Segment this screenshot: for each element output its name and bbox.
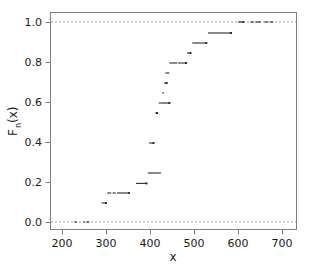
y-axis-ticks (46, 23, 51, 223)
step-endpoint-marker (185, 62, 187, 64)
step-endpoint-marker (230, 32, 232, 34)
step-endpoint-marker (205, 42, 207, 44)
y-axis-tick-labels: 0.0 0.2 0.4 0.6 0.8 1.0 (25, 16, 43, 229)
y-tick-label-0.8: 0.8 (25, 56, 43, 69)
x-tick-label-200: 200 (52, 237, 73, 250)
x-tick-label-300: 300 (96, 237, 117, 250)
x-axis-title: x (169, 250, 176, 264)
y-axis-title-tail: (x) (6, 107, 20, 123)
y-axis-title-base: F (6, 129, 20, 136)
x-axis-tick-labels: 200 300 400 500 600 700 (52, 237, 293, 250)
y-tick-label-1.0: 1.0 (25, 16, 43, 29)
step-endpoint-marker (153, 142, 155, 144)
x-tick-label-600: 600 (228, 237, 249, 250)
step-endpoint-marker (128, 192, 130, 194)
step-endpoint-marker (166, 82, 168, 84)
ecdf-data-layer (74, 21, 273, 222)
x-tick-label-400: 400 (140, 237, 161, 250)
ecdf-figure: 200 300 400 500 600 700 0.0 0.2 0.4 0.6 … (0, 0, 309, 264)
step-endpoint-marker (189, 52, 191, 54)
x-tick-label-500: 500 (184, 237, 205, 250)
reference-lines (51, 22, 296, 222)
x-tick-label-700: 700 (272, 237, 293, 250)
step-endpoint-marker (156, 112, 158, 114)
y-tick-label-0.6: 0.6 (25, 96, 43, 109)
step-endpoint-marker (105, 202, 107, 204)
plot-frame (51, 13, 297, 230)
step-endpoint-marker (168, 102, 170, 104)
y-tick-label-0.2: 0.2 (25, 176, 43, 189)
y-tick-label-0.4: 0.4 (25, 136, 43, 149)
step-endpoint-marker (145, 182, 147, 184)
y-axis-title: F n (x) (6, 107, 23, 136)
step-endpoint-marker (242, 21, 244, 23)
y-tick-label-0.0: 0.0 (25, 216, 43, 229)
x-axis-ticks (63, 230, 283, 235)
plot-canvas: 200 300 400 500 600 700 0.0 0.2 0.4 0.6 … (0, 0, 309, 264)
